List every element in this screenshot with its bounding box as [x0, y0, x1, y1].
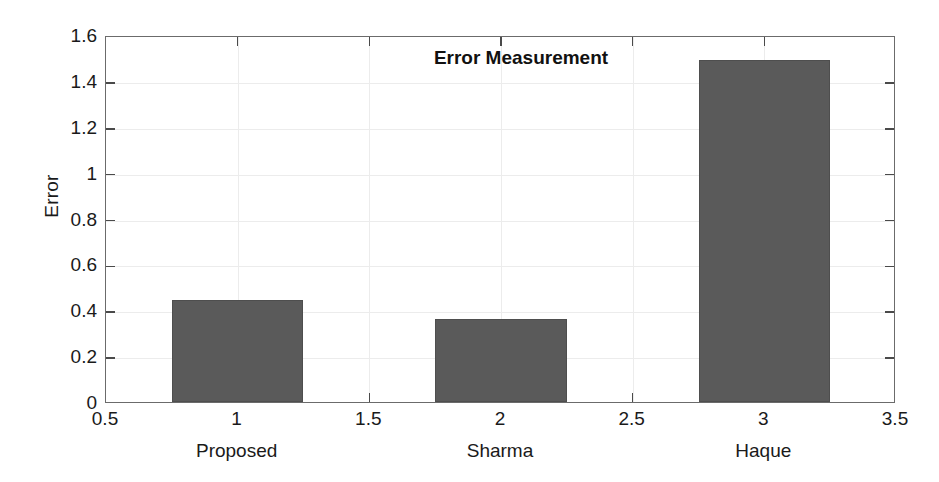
- bar: [699, 60, 831, 402]
- y-tick-mark: [885, 82, 894, 84]
- x-tick-label: 3.5: [855, 409, 935, 428]
- y-tick-label: 0.4: [37, 301, 97, 320]
- category-label: Haque: [683, 441, 843, 460]
- y-tick-label: 1.2: [37, 118, 97, 137]
- y-tick-mark: [106, 82, 115, 84]
- chart-title: Error Measurement: [396, 47, 646, 69]
- y-tick-label: 1: [37, 164, 97, 183]
- bar: [172, 300, 304, 402]
- x-tick-mark: [369, 37, 371, 46]
- x-tick-mark: [632, 37, 634, 46]
- x-tick-mark: [632, 393, 634, 402]
- y-tick-mark: [885, 311, 894, 313]
- x-tick-label: 2.5: [592, 409, 672, 428]
- y-tick-label: 1.6: [37, 26, 97, 45]
- y-tick-label: 0.8: [37, 210, 97, 229]
- y-tick-mark: [106, 357, 115, 359]
- bar-chart-figure: Error 00.20.40.60.811.21.41.6 Error Meas…: [0, 0, 939, 482]
- y-tick-mark: [106, 128, 115, 130]
- category-label: Proposed: [157, 441, 317, 460]
- category-labels: ProposedSharmaHaque: [105, 441, 895, 465]
- x-tick-mark: [369, 393, 371, 402]
- y-tick-mark: [106, 174, 115, 176]
- y-axis-tick-labels: 00.20.40.60.811.21.41.6: [35, 36, 97, 403]
- y-tick-mark: [885, 266, 894, 268]
- y-tick-mark: [885, 220, 894, 222]
- y-tick-label: 0.6: [37, 255, 97, 274]
- x-tick-label: 1: [197, 409, 277, 428]
- plot-area: Error Measurement: [105, 36, 895, 403]
- y-tick-label: 1.4: [37, 72, 97, 91]
- y-tick-mark: [106, 266, 115, 268]
- x-tick-label: 2: [460, 409, 540, 428]
- y-tick-mark: [106, 220, 115, 222]
- x-tick-mark: [237, 37, 239, 46]
- y-tick-mark: [885, 174, 894, 176]
- category-label: Sharma: [420, 441, 580, 460]
- x-axis-tick-labels: 0.511.522.533.5: [105, 409, 895, 433]
- gridline-vertical: [369, 37, 370, 402]
- y-tick-label: 0.2: [37, 347, 97, 366]
- x-tick-label: 1.5: [328, 409, 408, 428]
- y-tick-mark: [885, 357, 894, 359]
- y-tick-mark: [106, 311, 115, 313]
- x-tick-mark: [764, 37, 766, 46]
- x-tick-label: 3: [723, 409, 803, 428]
- bar: [435, 319, 567, 402]
- x-tick-label: 0.5: [65, 409, 145, 428]
- x-tick-mark: [500, 37, 502, 46]
- gridline-vertical: [633, 37, 634, 402]
- y-tick-mark: [885, 128, 894, 130]
